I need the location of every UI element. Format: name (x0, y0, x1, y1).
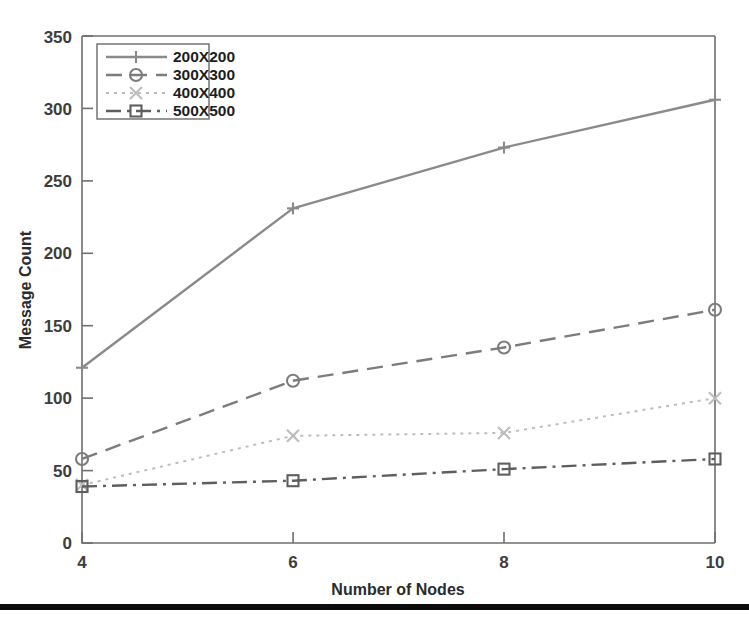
series-200x200 (76, 94, 721, 374)
y-axis-tick-labels: 0 50 100 150 200 250 300 350 (44, 28, 72, 553)
x-tick-label-10: 10 (706, 553, 725, 572)
data-point-marker (498, 142, 510, 154)
y-tick-label-350: 350 (44, 28, 72, 47)
series-300x300 (76, 304, 721, 465)
series-400x400 (76, 392, 721, 491)
legend-label-1: 300X300 (173, 66, 235, 83)
x-tick-label-4: 4 (77, 553, 87, 572)
series-line (82, 310, 715, 459)
x-axis-title: Number of Nodes (331, 581, 464, 598)
legend: 200X200 300X300 400X400 500X500 (97, 44, 235, 119)
series-500x500 (77, 453, 721, 492)
data-point-marker (709, 94, 721, 106)
y-tick-label-50: 50 (53, 462, 72, 481)
data-point-marker (287, 430, 299, 442)
page-horizontal-rule (0, 604, 749, 610)
data-point-marker (498, 427, 510, 439)
series-layer (76, 94, 721, 492)
y-axis-ticks (82, 36, 93, 543)
legend-label-3: 500X500 (173, 102, 235, 119)
legend-label-2: 400X400 (173, 84, 235, 101)
x-axis-tick-labels: 4 6 8 10 (77, 553, 724, 572)
y-tick-label-100: 100 (44, 389, 72, 408)
y-tick-label-200: 200 (44, 244, 72, 263)
chart-svg: 0 50 100 150 200 250 300 350 4 6 8 10 Nu… (0, 0, 749, 600)
y-axis-title: Message Count (17, 230, 34, 349)
x-tick-label-8: 8 (499, 553, 508, 572)
series-line (82, 398, 715, 485)
chart-figure: 0 50 100 150 200 250 300 350 4 6 8 10 Nu… (0, 0, 749, 600)
x-tick-label-6: 6 (288, 553, 297, 572)
y-tick-label-250: 250 (44, 172, 72, 191)
legend-label-0: 200X200 (173, 48, 235, 65)
y-tick-label-150: 150 (44, 317, 72, 336)
x-axis-ticks (82, 532, 715, 543)
y-tick-label-300: 300 (44, 100, 72, 119)
y-tick-label-0: 0 (63, 534, 72, 553)
